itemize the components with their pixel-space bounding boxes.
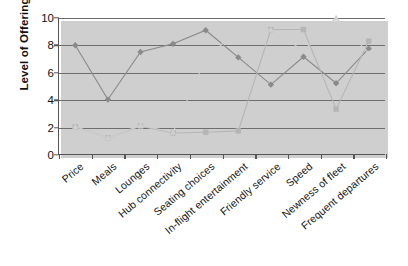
marker-series-square-8 [333, 106, 338, 111]
line-chart: Level of Offering 0246810 PriceMealsLoun… [0, 0, 408, 266]
marker-series-square-5 [236, 128, 241, 133]
marker-series-triangle-8 [333, 15, 339, 21]
x-tick-mark-6 [255, 154, 256, 159]
x-tick-mark-9 [353, 154, 354, 159]
x-tick-mark-5 [223, 154, 224, 159]
y-tick-label-10: 10 [41, 12, 54, 24]
marker-series-square-7 [301, 27, 306, 32]
x-tick-mark-1 [92, 154, 93, 159]
marker-series-diamond-2 [137, 49, 143, 55]
x-tick-mark-8 [321, 154, 322, 159]
marker-series-diamond-1 [105, 96, 111, 102]
x-tick-mark-10 [386, 154, 387, 159]
x-tick-mark-0 [59, 154, 60, 159]
marker-series-diamond-0 [72, 42, 78, 48]
y-axis-title: Level of Offering [18, 0, 30, 114]
x-tick-mark-2 [124, 154, 125, 159]
marker-series-square-9 [366, 38, 371, 43]
x-label-price: Price [60, 160, 86, 185]
plot-area: 0246810 [58, 18, 385, 155]
x-tick-mark-3 [157, 154, 158, 159]
line-series-triangle [75, 18, 368, 138]
series-layer [59, 18, 385, 154]
plot-inner: 0246810 [59, 18, 385, 154]
x-tick-mark-4 [190, 154, 191, 159]
marker-series-square-4 [203, 130, 208, 135]
line-series-diamond [75, 30, 368, 99]
marker-series-diamond-3 [170, 41, 176, 47]
x-tick-mark-7 [288, 154, 289, 159]
